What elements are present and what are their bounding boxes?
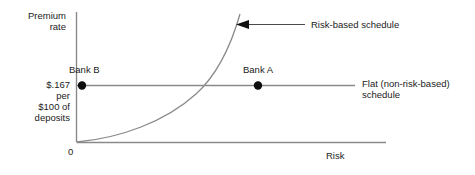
risk-based-schedule-series: [77, 14, 240, 142]
origin-label: 0: [68, 146, 82, 157]
axes-group: [77, 12, 387, 143]
risk-based-schedule-label: Risk-based schedule: [311, 19, 399, 30]
bank-a-point: [254, 81, 262, 89]
y-axis-title: Premium rate: [4, 10, 66, 32]
y-axis-tick-label: $.167 per $100 of deposits: [4, 79, 70, 123]
premium-rate-risk-chart: Premium rate $.167 per $100 of deposits …: [0, 0, 475, 175]
flat-schedule-label: Flat (non-risk-based) schedule: [362, 78, 474, 100]
bank-a-label: Bank A: [243, 64, 273, 75]
x-axis-title: Risk: [326, 150, 344, 161]
bank-b-label: Bank B: [69, 64, 100, 75]
bank-b-point: [78, 81, 86, 89]
risk-based-curve: [77, 14, 240, 142]
risk-curve-callout: [236, 20, 305, 29]
